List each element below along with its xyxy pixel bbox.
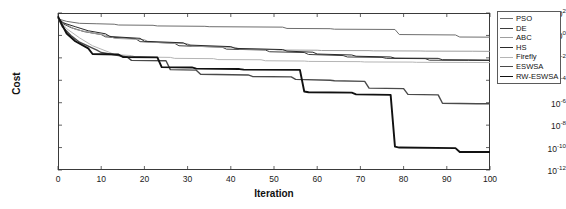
legend-label: ESWSA xyxy=(516,62,543,72)
x-tick-label: 40 xyxy=(226,174,235,184)
x-tick-label: 10 xyxy=(96,174,105,184)
x-tick-label: 30 xyxy=(183,174,192,184)
x-tick-label: 80 xyxy=(399,174,408,184)
legend-swatch-icon xyxy=(500,57,513,58)
figure-container: 10210010-210-410-610-810-1010-12 0102030… xyxy=(0,0,566,209)
legend-item-de[interactable]: DE xyxy=(498,24,560,34)
x-tick-label: 20 xyxy=(140,174,149,184)
legend-item-hs[interactable]: HS xyxy=(498,43,560,53)
legend-label: ABC xyxy=(516,33,532,43)
legend-label: DE xyxy=(516,24,527,34)
legend-item-pso[interactable]: PSO xyxy=(498,14,560,24)
x-tick-label: 60 xyxy=(312,174,321,184)
x-tick-label: 100 xyxy=(483,174,497,184)
legend-swatch-icon xyxy=(500,37,513,38)
y-tick-label: 10-8 xyxy=(513,119,566,131)
legend: PSODEABCHSFireflyESWSARW-ESWSA xyxy=(497,11,561,84)
x-tick-label: 50 xyxy=(269,174,278,184)
y-axis-label: Cost xyxy=(11,54,22,114)
x-tick-label: 90 xyxy=(442,174,451,184)
legend-item-rw-eswsa[interactable]: RW-ESWSA xyxy=(498,72,560,82)
y-tick-label: 10-12 xyxy=(513,164,566,176)
legend-swatch-icon xyxy=(500,47,513,48)
x-axis-label: Iteration xyxy=(58,188,490,199)
legend-label: RW-ESWSA xyxy=(516,72,558,82)
y-tick-label: 10-6 xyxy=(513,97,566,109)
y-tick-label: 10-10 xyxy=(513,142,566,154)
legend-label: HS xyxy=(516,43,527,53)
legend-swatch-icon xyxy=(500,18,513,19)
legend-item-firefly[interactable]: Firefly xyxy=(498,52,560,62)
series-line-rw-eswsa xyxy=(58,16,490,152)
legend-swatch-icon xyxy=(500,66,513,67)
series-line-pso xyxy=(58,19,490,37)
legend-label: PSO xyxy=(516,14,532,24)
legend-swatch-icon xyxy=(500,28,513,29)
x-tick-label: 70 xyxy=(356,174,365,184)
legend-label: Firefly xyxy=(516,52,537,62)
legend-item-abc[interactable]: ABC xyxy=(498,33,560,43)
series-paths xyxy=(58,16,490,152)
tick-marks xyxy=(58,13,490,170)
legend-item-eswsa[interactable]: ESWSA xyxy=(498,62,560,72)
chart-svg xyxy=(0,0,566,209)
legend-swatch-icon xyxy=(500,76,513,77)
x-tick-label: 0 xyxy=(56,174,61,184)
